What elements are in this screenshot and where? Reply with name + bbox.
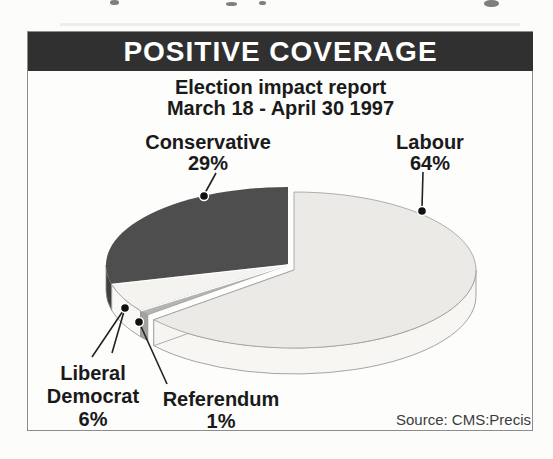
scanned-chart-page: POSITIVE COVERAGE Election impact report… (0, 0, 553, 459)
liberal-democrat-leader-line (92, 308, 125, 357)
referendum-callout-dot (135, 318, 144, 327)
label-libdem-line1: Liberal (23, 362, 163, 385)
chart-title-bar: POSITIVE COVERAGE (28, 32, 533, 71)
labour-leader-line (422, 172, 423, 207)
label-conservative: Conservative 29% (133, 132, 283, 174)
label-labour-pct: 64% (355, 153, 505, 174)
conservative-leader-line (205, 173, 216, 193)
label-referendum-name: Referendum (141, 388, 301, 410)
label-conservative-pct: 29% (133, 153, 283, 174)
label-conservative-name: Conservative (133, 132, 283, 153)
chart-title: POSITIVE COVERAGE (123, 36, 437, 68)
source-credit: Source: CMS:Precis (396, 411, 531, 428)
subtitle-line-2: March 18 - April 30 1997 (27, 98, 534, 119)
label-referendum: Referendum 1% (141, 388, 301, 432)
subtitle-line-1: Election impact report (27, 77, 534, 98)
labour-callout-dot (418, 207, 427, 216)
liberal-democrat-callout-dot (121, 304, 130, 313)
conservative-callout-dot (200, 192, 209, 201)
chart-subtitle: Election impact report March 18 - April … (27, 77, 534, 119)
label-referendum-pct: 1% (141, 410, 301, 432)
label-labour-name: Labour (355, 132, 505, 153)
label-labour: Labour 64% (355, 132, 505, 174)
